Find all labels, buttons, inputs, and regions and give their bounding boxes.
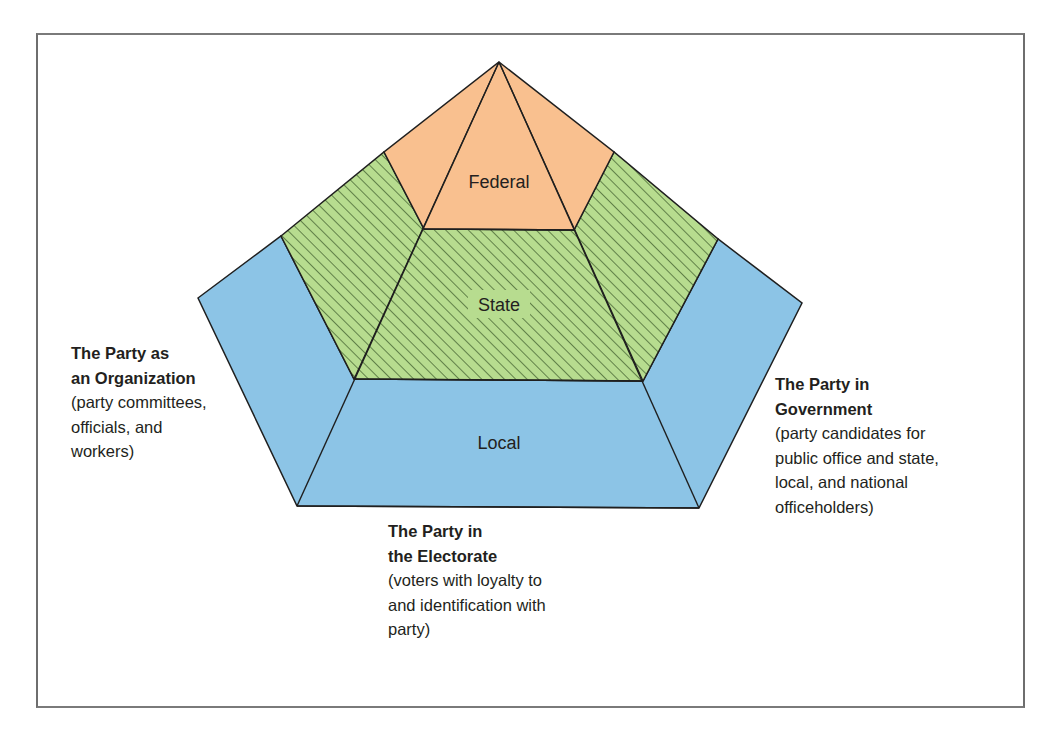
caption-title-line: The Party in bbox=[775, 372, 1015, 397]
caption-party-in-government: The Party in Government (party candidate… bbox=[775, 372, 1015, 519]
state-label: State bbox=[478, 295, 520, 315]
federal-state-divider bbox=[424, 229, 574, 230]
caption-desc-line: (voters with loyalty to bbox=[388, 568, 628, 593]
caption-title-line: the Electorate bbox=[388, 544, 628, 569]
caption-desc-line: party) bbox=[388, 617, 628, 642]
federal-region bbox=[384, 62, 614, 230]
caption-desc-line: (party candidates for bbox=[775, 421, 1015, 446]
caption-desc-line: workers) bbox=[71, 439, 261, 464]
federal-label: Federal bbox=[468, 172, 529, 192]
caption-desc-line: local, and national bbox=[775, 470, 1015, 495]
caption-title-line: The Party as bbox=[71, 341, 261, 366]
caption-title-line: Government bbox=[775, 397, 1015, 422]
caption-desc-line: and identification with bbox=[388, 593, 628, 618]
caption-title-line: an Organization bbox=[71, 366, 261, 391]
caption-title-line: The Party in bbox=[388, 519, 628, 544]
caption-desc-line: (party committees, bbox=[71, 390, 261, 415]
caption-party-in-electorate: The Party in the Electorate (voters with… bbox=[388, 519, 628, 642]
caption-desc-line: officeholders) bbox=[775, 495, 1015, 520]
local-label: Local bbox=[477, 433, 520, 453]
caption-party-as-organization: The Party as an Organization (party comm… bbox=[71, 341, 261, 464]
caption-desc-line: public office and state, bbox=[775, 446, 1015, 471]
caption-desc-line: officials, and bbox=[71, 415, 261, 440]
